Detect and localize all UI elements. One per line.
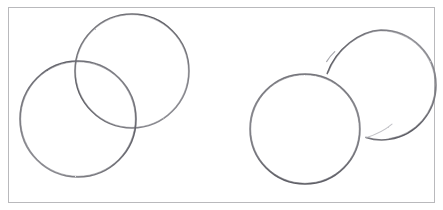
paper-border-frame	[9, 8, 435, 203]
sketch-canvas: Pencil sketch of overlapping circles gra…	[0, 0, 443, 210]
sketch-drawing	[0, 0, 443, 210]
